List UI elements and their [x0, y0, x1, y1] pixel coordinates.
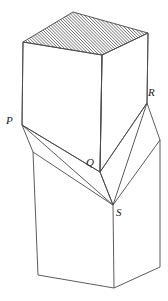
edge-P-to-S: [22, 125, 113, 205]
edge-R-to-S: [113, 103, 147, 205]
upper-prism-right-face: [100, 33, 148, 172]
prism-diagram-svg: [0, 0, 168, 301]
geometry-figure: P Q R S: [0, 0, 168, 301]
vertex-label-s: S: [116, 207, 122, 218]
edge-top-front-to-Q: [100, 55, 102, 172]
edge-lower-left-vertical: [33, 152, 38, 275]
vertex-label-p: P: [6, 115, 13, 126]
bottom-face-outline: [38, 267, 160, 288]
edge-lower-front-vertical: [113, 205, 114, 288]
edge-top-left-to-P: [22, 42, 23, 125]
vertex-label-q: Q: [86, 157, 94, 168]
vertex-label-r: R: [148, 87, 155, 98]
top-face-hatched: [23, 12, 148, 55]
